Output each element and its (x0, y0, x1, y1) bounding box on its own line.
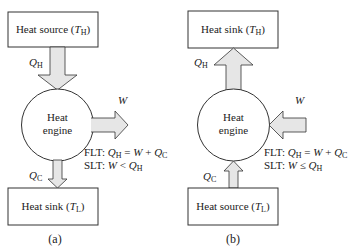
caption-b: (b) (226, 232, 240, 246)
qh-arrow-up-icon (214, 48, 253, 90)
work-arrow-out-icon (91, 111, 128, 139)
qc-arrow-down-icon (48, 160, 67, 188)
engine-label-line1: Heat (47, 111, 68, 123)
qc-label-b: QC (203, 170, 216, 184)
engine-label-line2: engine (43, 124, 72, 136)
caption-a: (a) (48, 232, 61, 246)
panel-b: Heat sink (TH) QH Heat engine W FLT: QH … (188, 11, 347, 246)
engine-label-line1-b: Heat (223, 111, 244, 123)
qh-label-b: QH (194, 56, 208, 70)
work-label: W (118, 94, 128, 106)
qc-label: QC (29, 169, 42, 183)
work-label-b: W (295, 94, 305, 106)
panel-a: Heat source (TH) QH Heat engine W FLT: Q… (8, 12, 167, 246)
qh-label: QH (29, 56, 43, 70)
qh-arrow-down-icon (38, 47, 77, 90)
heat-source-label: Heat source (TH) (16, 23, 91, 37)
flt-equation: FLT: QH = W + QC (84, 146, 167, 160)
heat-sink-label: Heat sink (TL) (22, 200, 85, 214)
engine-label-line2-b: engine (219, 124, 248, 136)
work-arrow-in-icon (269, 111, 306, 139)
slt-inequality-b: SLT: W ≤ QH (264, 159, 322, 173)
slt-inequality: SLT: W < QH (84, 159, 143, 173)
heat-source-label-b: Heat source (TL) (196, 200, 270, 214)
flt-equation-b: FLT: QH = W + QC (264, 146, 347, 160)
qc-arrow-up-icon (224, 161, 243, 188)
